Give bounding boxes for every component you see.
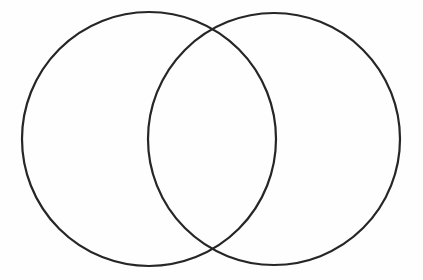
- venn-diagram-figure: [0, 0, 423, 280]
- venn-diagram-canvas: [0, 0, 423, 280]
- figure-background: [0, 0, 423, 280]
